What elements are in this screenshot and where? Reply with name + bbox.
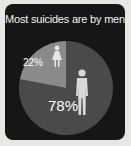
pie-chart: 22% 78% xyxy=(0,0,131,146)
label-men: 78% xyxy=(48,97,78,114)
label-women: 22% xyxy=(23,57,43,68)
